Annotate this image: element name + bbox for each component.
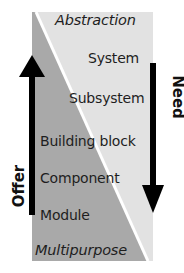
level-component: Component [40,170,119,186]
need-label: Need [169,75,184,119]
level-building-block: Building block [40,133,136,149]
level-module: Module [40,207,90,223]
offer-label: Offer [10,165,28,207]
need-arrow-down-icon [141,63,165,213]
top-label-abstraction: Abstraction [55,12,136,28]
bottom-label-multipurpose: Multipurpose [35,242,127,258]
level-subsystem: Subsystem [69,90,144,106]
level-system: System [88,50,139,66]
